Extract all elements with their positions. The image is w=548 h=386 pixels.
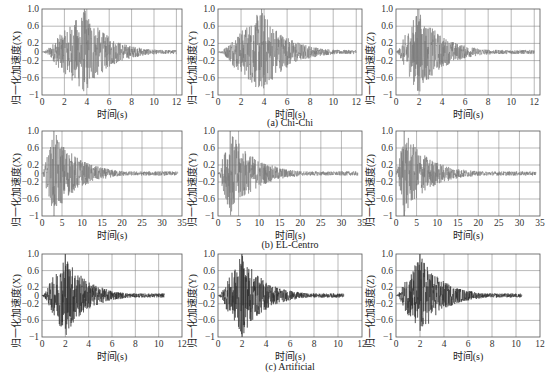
plot-chichi-z: 024681012−1−0.6−0.200.20.61.0 (396, 9, 540, 95)
svg-text:−1: −1 (205, 332, 215, 342)
svg-text:0.6: 0.6 (27, 266, 39, 276)
plot-area: 05101520253035−1−0.6−0.200.20.61.0 (396, 131, 540, 216)
svg-text:−0.6: −0.6 (22, 73, 39, 83)
caption-artificial: (c) Artificial (200, 361, 380, 372)
caption-chichi: (a) Chi-Chi (200, 117, 380, 128)
svg-text:0.2: 0.2 (203, 282, 215, 292)
svg-text:−0.6: −0.6 (22, 194, 39, 204)
svg-text:−0.6: −0.6 (198, 194, 215, 204)
x-axis-label: 时间(s) (398, 348, 538, 363)
svg-text:0.2: 0.2 (381, 282, 393, 292)
svg-text:−0.6: −0.6 (376, 315, 393, 325)
plot-elcentro-z: 05101520253035−1−0.6−0.200.20.61.0 (396, 131, 540, 216)
y-axis-label: 归一化加速度(Z) (362, 154, 377, 227)
y-axis-label: 归一化加速度(Z) (362, 32, 377, 105)
svg-text:−1: −1 (29, 211, 39, 221)
svg-text:0.2: 0.2 (381, 160, 393, 170)
x-axis-label: 时间(s) (398, 227, 538, 242)
svg-text:0.2: 0.2 (381, 38, 393, 48)
svg-text:−0.2: −0.2 (198, 56, 215, 66)
caption-elcentro: (b) EL-Centro (200, 239, 380, 250)
svg-text:0.6: 0.6 (381, 266, 393, 276)
svg-text:1.0: 1.0 (203, 4, 215, 14)
svg-text:0: 0 (34, 169, 39, 179)
svg-text:−0.6: −0.6 (198, 73, 215, 83)
svg-text:−0.2: −0.2 (22, 56, 39, 66)
y-axis-label: 归一化加速度(Y) (184, 31, 199, 105)
y-axis-label: 归一化加速度(Y) (184, 274, 199, 348)
svg-text:−0.2: −0.2 (22, 177, 39, 187)
plot-area: 024681012−1−0.6−0.200.20.61.0 (396, 254, 540, 337)
svg-text:1.0: 1.0 (203, 249, 215, 259)
svg-text:0: 0 (388, 169, 393, 179)
y-axis-label: 归一化加速度(Z) (362, 275, 377, 348)
svg-text:−0.6: −0.6 (376, 73, 393, 83)
svg-text:0: 0 (388, 47, 393, 57)
plot-chichi-y: 024681012−1−0.6−0.200.20.61.0 (218, 9, 362, 95)
svg-text:1.0: 1.0 (381, 126, 393, 136)
svg-text:−0.6: −0.6 (198, 315, 215, 325)
plot-area: 024681012−1−0.6−0.200.20.61.0 (218, 254, 362, 337)
svg-text:0.2: 0.2 (203, 160, 215, 170)
svg-text:0.6: 0.6 (203, 21, 215, 31)
svg-text:−0.6: −0.6 (22, 315, 39, 325)
x-axis-label: 时间(s) (42, 227, 182, 242)
svg-text:−0.2: −0.2 (376, 56, 393, 66)
svg-text:−1: −1 (29, 90, 39, 100)
svg-text:−0.2: −0.2 (198, 177, 215, 187)
svg-text:0: 0 (210, 47, 215, 57)
y-axis-label: 归一化加速度(Y) (184, 153, 199, 227)
x-axis-label: 时间(s) (42, 348, 182, 363)
svg-text:0.2: 0.2 (27, 282, 39, 292)
plot-area: 05101520253035−1−0.6−0.200.20.61.0 (42, 131, 182, 216)
svg-text:0.6: 0.6 (27, 143, 39, 153)
svg-text:−0.6: −0.6 (376, 194, 393, 204)
y-axis-label: 归一化加速度(X) (8, 153, 23, 227)
plot-area: 05101520253035−1−0.6−0.200.20.61.0 (218, 131, 362, 216)
svg-text:1.0: 1.0 (27, 4, 39, 14)
svg-text:0.2: 0.2 (203, 38, 215, 48)
svg-text:−1: −1 (205, 211, 215, 221)
svg-text:1.0: 1.0 (27, 126, 39, 136)
svg-text:−1: −1 (383, 211, 393, 221)
plot-area: 024681012−1−0.6−0.200.20.61.0 (396, 9, 540, 95)
plot-area: 024681012−1−0.6−0.200.20.61.0 (42, 254, 182, 337)
svg-text:−1: −1 (383, 332, 393, 342)
plot-artificial-x: 024681012−1−0.6−0.200.20.61.0 (42, 254, 182, 337)
plot-area: 024681012−1−0.6−0.200.20.61.0 (42, 9, 182, 95)
svg-text:0.6: 0.6 (381, 21, 393, 31)
svg-text:−0.2: −0.2 (376, 177, 393, 187)
svg-text:0.6: 0.6 (203, 143, 215, 153)
svg-text:0.6: 0.6 (381, 143, 393, 153)
x-axis-label: 时间(s) (398, 106, 538, 121)
svg-text:0.2: 0.2 (27, 38, 39, 48)
svg-text:−1: −1 (383, 90, 393, 100)
plot-artificial-z: 024681012−1−0.6−0.200.20.61.0 (396, 254, 540, 337)
svg-text:0: 0 (210, 169, 215, 179)
plot-elcentro-x: 05101520253035−1−0.6−0.200.20.61.0 (42, 131, 182, 216)
x-axis-label: 时间(s) (42, 106, 182, 121)
svg-text:1.0: 1.0 (381, 249, 393, 259)
plot-elcentro-y: 05101520253035−1−0.6−0.200.20.61.0 (218, 131, 362, 216)
y-axis-label: 归一化加速度(X) (8, 31, 23, 105)
svg-text:0.2: 0.2 (27, 160, 39, 170)
plot-artificial-y: 024681012−1−0.6−0.200.20.61.0 (218, 254, 362, 337)
svg-text:0: 0 (34, 47, 39, 57)
svg-text:0.6: 0.6 (27, 21, 39, 31)
plot-chichi-x: 024681012−1−0.6−0.200.20.61.0 (42, 9, 182, 95)
y-axis-label: 归一化加速度(X) (8, 274, 23, 348)
svg-text:−1: −1 (29, 332, 39, 342)
svg-text:1.0: 1.0 (381, 4, 393, 14)
plot-area: 024681012−1−0.6−0.200.20.61.0 (218, 9, 362, 95)
svg-text:−1: −1 (205, 90, 215, 100)
svg-text:0.6: 0.6 (203, 266, 215, 276)
svg-text:1.0: 1.0 (27, 249, 39, 259)
